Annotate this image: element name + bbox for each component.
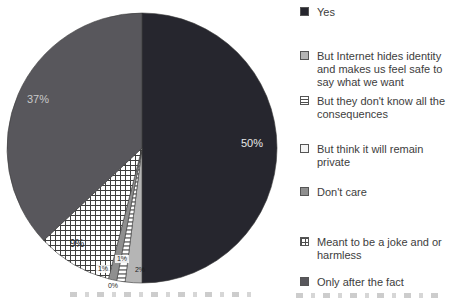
legend-item-yes: Yes — [300, 6, 456, 19]
legend-label: But they don't know all the consequences — [317, 95, 456, 121]
slice-label: 1% — [98, 265, 108, 272]
legend-label: But think it will remain private — [317, 143, 456, 169]
pie-chart-figure: 50%2%1%0%1%9%37% Yes But Internet hides … — [0, 0, 456, 299]
legend-swatch-yes — [300, 7, 309, 16]
legend-item-dont-know-consequences: But they don't know all the consequences — [300, 95, 456, 121]
slice-label: 2% — [135, 266, 145, 273]
cutoff-caption-fragment — [296, 293, 444, 298]
legend-item-remain-private: But think it will remain private — [300, 143, 456, 169]
legend-item-hides-identity: But Internet hides identity and makes us… — [300, 50, 456, 89]
legend-item-dont-care: Don't care — [300, 186, 456, 199]
legend: Yes But Internet hides identity and make… — [300, 0, 456, 299]
slice-label: 0% — [108, 282, 118, 289]
legend-label: Only after the fact — [317, 276, 456, 289]
cutoff-caption-fragment — [70, 292, 255, 297]
legend-label: But Internet hides identity and makes us… — [317, 50, 456, 89]
pie-chart-svg: 50%2%1%0%1%9%37% — [0, 0, 300, 299]
slice-label: 9% — [70, 238, 85, 249]
legend-swatch-dont-know-consequences — [300, 96, 309, 105]
slice-label: 1% — [117, 255, 127, 262]
legend-item-only-after-fact: Only after the fact — [300, 276, 456, 289]
legend-swatch-hides-identity — [300, 51, 309, 60]
slice-label: 50% — [241, 137, 263, 149]
legend-item-joke-harmless: Meant to be a joke and or harmless — [300, 236, 456, 262]
legend-swatch-dont-care — [300, 187, 309, 196]
legend-swatch-joke-harmless — [300, 237, 309, 246]
legend-label: Meant to be a joke and or harmless — [317, 236, 456, 262]
pie-chart: 50%2%1%0%1%9%37% — [0, 0, 300, 299]
slice-label: 37% — [27, 93, 49, 105]
legend-swatch-remain-private — [300, 144, 309, 153]
legend-label: Don't care — [317, 186, 456, 199]
legend-swatch-only-after-fact — [300, 277, 309, 286]
pie-slices — [7, 13, 277, 283]
legend-label: Yes — [317, 6, 456, 19]
